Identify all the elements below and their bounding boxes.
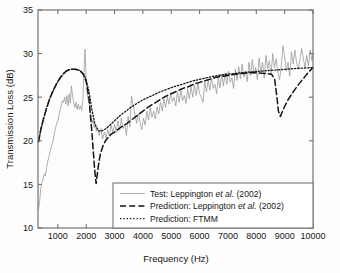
x-axis-title: Frequency (Hz) [143,253,208,264]
x-tick-label: 1000 [48,231,68,241]
y-tick-label: 25 [23,93,33,103]
x-tick-label: 10000 [300,231,325,241]
x-tick-label: 5000 [161,231,181,241]
y-tick-label: 20 [23,136,33,146]
y-axis-title: Transmission Loss (dB) [4,69,15,168]
x-tick-label: 6000 [190,231,210,241]
y-tick-label: 35 [23,5,33,15]
y-tick-label: 30 [23,49,33,59]
legend-label-1: Prediction: Leppington et al. (2002) [150,201,284,211]
transmission-loss-chart: 1000200030004000500060007000800090001000… [0,0,340,273]
legend-box[interactable]: Test: Leppington et al. (2002)Prediction… [113,183,313,228]
x-tick-label: 2000 [76,231,96,241]
legend-label-2: Prediction: FTMM [150,214,218,224]
x-tick-label: 9000 [275,231,295,241]
x-tick-label: 3000 [105,231,125,241]
figure-container: 1000200030004000500060007000800090001000… [0,0,340,273]
y-tick-label: 15 [23,180,33,190]
y-tick-label: 10 [23,223,33,233]
x-tick-label: 4000 [133,231,153,241]
x-tick-label: 7000 [218,231,238,241]
legend-label-0: Test: Leppington et al. (2002) [150,189,261,199]
x-tick-label: 8000 [246,231,266,241]
